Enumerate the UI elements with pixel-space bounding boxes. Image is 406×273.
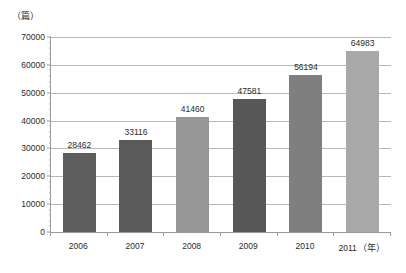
- x-axis-tick-label: 2006: [50, 241, 107, 254]
- x-axis-tick-marks: [50, 232, 390, 237]
- y-axis-tick-label: 0: [40, 227, 45, 237]
- bar-value-label: 56194: [294, 62, 318, 72]
- y-axis-tick-label: 20000: [21, 171, 45, 181]
- x-axis-tick-label: 2008: [163, 241, 220, 254]
- bar-group: 64983: [334, 37, 391, 232]
- y-axis-tick-label: 10000: [21, 199, 45, 209]
- x-axis-unit-label: （年）: [358, 243, 385, 253]
- y-axis-unit-label: （篇）: [12, 11, 39, 22]
- bar[interactable]: 56194: [289, 75, 322, 232]
- bar[interactable]: 64983: [346, 51, 379, 232]
- bar-group: 56194: [278, 37, 335, 232]
- bar-group: 41460: [164, 37, 221, 232]
- x-axis-tick-label: 2009: [220, 241, 277, 254]
- x-axis-category-text: 2011: [338, 243, 356, 253]
- bar-group: 47581: [221, 37, 278, 232]
- x-axis-category-text: 2008: [182, 241, 201, 251]
- bar-value-label: 47581: [237, 86, 261, 96]
- x-axis-tick-mark: [333, 232, 334, 236]
- y-axis-tick-label: 70000: [21, 32, 45, 42]
- bar[interactable]: 47581: [233, 99, 266, 232]
- y-axis-tick-label: 40000: [21, 116, 45, 126]
- bar[interactable]: 28462: [63, 153, 96, 232]
- x-axis-category-text: 2006: [69, 241, 88, 251]
- x-axis-tick-label: 2007: [107, 241, 164, 254]
- bar[interactable]: 33116: [119, 140, 152, 232]
- bar-group: 28462: [51, 37, 108, 232]
- x-axis-tick-label: 2011（年）: [333, 241, 390, 254]
- x-axis-category-text: 2007: [126, 241, 145, 251]
- bar-value-label: 33116: [124, 127, 147, 137]
- x-axis-category-text: 2010: [295, 241, 314, 251]
- x-axis-tick-mark: [163, 232, 164, 236]
- y-axis-tick-label: 30000: [21, 143, 45, 153]
- bar-value-label: 64983: [351, 38, 375, 48]
- y-axis-tick-label: 60000: [21, 60, 45, 70]
- bar-group: 33116: [108, 37, 165, 232]
- x-axis-tick-mark: [50, 232, 51, 236]
- bar-value-label: 41460: [181, 104, 205, 114]
- bar-value-label: 28462: [68, 140, 92, 150]
- y-axis-tick-label: 50000: [21, 88, 45, 98]
- x-axis-tick-mark: [277, 232, 278, 236]
- x-axis-category-text: 2009: [239, 241, 258, 251]
- bar-series: 284623311641460475815619464983: [51, 37, 391, 232]
- plot-area: 010000200003000040000500006000070000 284…: [50, 37, 390, 232]
- x-axis-tick-mark: [107, 232, 108, 236]
- bar-chart: （篇） 010000200003000040000500006000070000…: [0, 0, 406, 273]
- x-axis-tick-labels: 200620072008200920102011（年）: [50, 241, 390, 254]
- x-axis-tick-mark: [220, 232, 221, 236]
- x-axis-tick-label: 2010: [277, 241, 334, 254]
- bar[interactable]: 41460: [176, 117, 209, 232]
- x-axis-tick-mark: [390, 232, 391, 236]
